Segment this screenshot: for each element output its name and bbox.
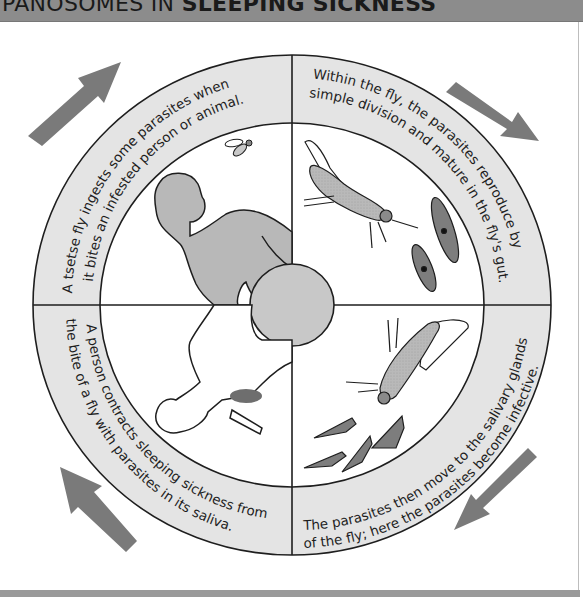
center-circle xyxy=(250,264,334,346)
life-cycle-diagram: A tsetse fly ingests some parasites when… xyxy=(0,0,583,616)
footer-bar xyxy=(0,590,580,597)
